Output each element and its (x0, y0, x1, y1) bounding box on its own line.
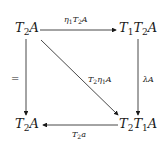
node-text: T (15, 20, 24, 35)
node-text: A (29, 116, 38, 131)
label-text: a (81, 130, 86, 139)
node-top-left: T2A (15, 20, 39, 37)
node-bottom-right: T2T1A (119, 116, 157, 133)
node-text: T (119, 20, 128, 35)
node-text: A (148, 116, 157, 131)
node-bottom-left: T2A (15, 116, 39, 133)
label-right-arrow: λA (143, 75, 154, 84)
label-text: A (106, 75, 112, 84)
node-text: T (119, 116, 128, 131)
label-top-arrow: η1T2A (64, 15, 88, 25)
node-text: A (148, 20, 157, 35)
node-text: T (133, 20, 142, 35)
node-text: T (133, 116, 142, 131)
label-diagonal-arrow: T2η1A (88, 75, 112, 85)
label-text: A (82, 15, 88, 24)
node-text: T (15, 116, 24, 131)
label-left-arrow: = (11, 73, 19, 84)
label-bottom-arrow: T2a (72, 130, 86, 140)
node-text: A (29, 20, 38, 35)
node-top-right: T1T2A (119, 20, 157, 37)
